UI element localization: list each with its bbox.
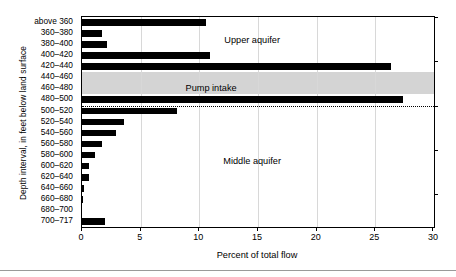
plot-area: Upper aquiferPump intakeMiddle aquifer [81,16,435,228]
x-axis-title: Percent of total flow [81,250,433,260]
bar-row [82,172,434,183]
category-label: 480–500 [14,93,76,104]
bar[interactable] [82,218,105,225]
bar-row [82,106,434,117]
bar[interactable] [82,130,116,137]
category-label: 500–520 [14,105,76,116]
x-tick [374,227,375,231]
category-label: 620–640 [14,171,76,182]
x-tick [432,227,433,231]
bar[interactable] [82,41,107,48]
x-tick-label: 10 [193,232,203,242]
bar[interactable] [82,108,177,115]
aquifer-boundary-line [82,106,434,107]
x-tick-label: 25 [369,232,379,242]
plot-inner: Upper aquiferPump intakeMiddle aquifer [82,17,434,227]
category-label: 540–560 [14,127,76,138]
bar[interactable] [82,63,391,70]
bar[interactable] [82,119,124,126]
x-tick-label: 30 [428,232,438,242]
bar[interactable] [82,152,95,159]
middle-aquifer-label: Middle aquifer [223,156,281,166]
bar[interactable] [82,174,89,181]
category-label: 520–540 [14,116,76,127]
bar-row [82,117,434,128]
bar-row [82,183,434,194]
x-tick-label: 0 [78,232,83,242]
bar[interactable] [82,185,84,192]
x-tick [257,227,258,231]
bar[interactable] [82,52,210,59]
category-label: 560–580 [14,138,76,149]
y-tick [434,17,438,18]
bar-row [82,216,434,227]
pump-intake-label: Pump intake [186,83,237,93]
bar-row [82,139,434,150]
upper-aquifer-label: Upper aquifer [224,35,280,45]
bar[interactable] [82,19,206,26]
bar[interactable] [82,163,89,170]
category-label: 640–660 [14,182,76,193]
category-label: 660–680 [14,193,76,204]
x-tick [316,227,317,231]
bar-row [82,61,434,72]
category-label-column: above 360 360–380 380–400 400–420 420–44… [14,16,76,226]
category-label: 440–460 [14,71,76,82]
x-axis: 051015202530 [81,227,433,249]
bar-row [82,128,434,139]
category-label: above 360 [14,16,76,27]
bar[interactable] [82,196,83,203]
y-tick [434,150,438,151]
category-label: 400–420 [14,49,76,60]
footer-divider [0,270,456,271]
category-label: 680–700 [14,204,76,215]
y-tick [434,106,438,107]
category-label: 460–480 [14,82,76,93]
bar-row [82,17,434,28]
bar-row [82,194,434,205]
x-tick-label: 15 [252,232,262,242]
x-tick-label: 20 [311,232,321,242]
y-tick [434,61,438,62]
category-label: 600–620 [14,160,76,171]
x-tick-label: 5 [137,232,142,242]
category-label: 420–440 [14,60,76,71]
chart-root: Depth interval, in feet below land surfa… [0,0,456,277]
bar[interactable] [82,96,403,103]
category-label: 700–717 [14,215,76,226]
y-tick [434,194,438,195]
category-label: 360–380 [14,27,76,38]
bar-row [82,94,434,105]
x-tick [140,227,141,231]
x-tick [81,227,82,231]
category-label: 580–600 [14,149,76,160]
bar[interactable] [82,141,102,148]
category-label: 380–400 [14,38,76,49]
bar-row [82,50,434,61]
x-tick [198,227,199,231]
bar[interactable] [82,30,102,37]
